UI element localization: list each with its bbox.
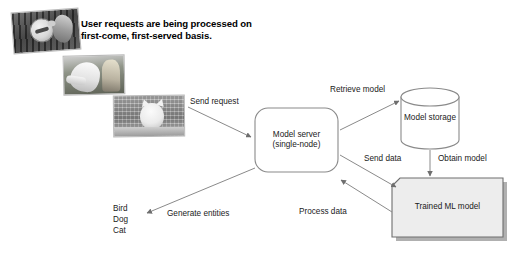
trained-model-label: Trained ML model [392, 202, 503, 212]
edge-label-send-request: Send request [190, 97, 239, 106]
edge-retrieve-model [340, 101, 399, 130]
model-storage-top [401, 88, 459, 106]
diagram-shapes-layer [0, 0, 508, 263]
model-server-label-line-1: Model server [255, 130, 338, 140]
model-server-label: Model server (single-node) [255, 130, 338, 151]
diagram-canvas: User requests are being processed on fir… [0, 0, 508, 263]
model-server-label-line-2: (single-node) [255, 140, 338, 150]
generated-entities-list: Bird Dog Cat [113, 203, 128, 237]
model-storage-label: Model storage [401, 113, 459, 123]
edge-label-send-data: Send data [364, 154, 401, 163]
edge-process-data [341, 180, 392, 212]
edge-label-process-data: Process data [299, 207, 347, 216]
entity-item: Bird [113, 203, 128, 214]
entity-item: Dog [113, 214, 128, 225]
edge-label-generate-entities: Generate entities [167, 209, 229, 218]
edge-generate-entities [147, 168, 255, 213]
entity-item: Cat [113, 225, 128, 236]
edge-label-obtain-model: Obtain model [438, 154, 487, 163]
edge-label-retrieve-model: Retrieve model [330, 85, 385, 94]
edge-send-request [188, 107, 251, 137]
